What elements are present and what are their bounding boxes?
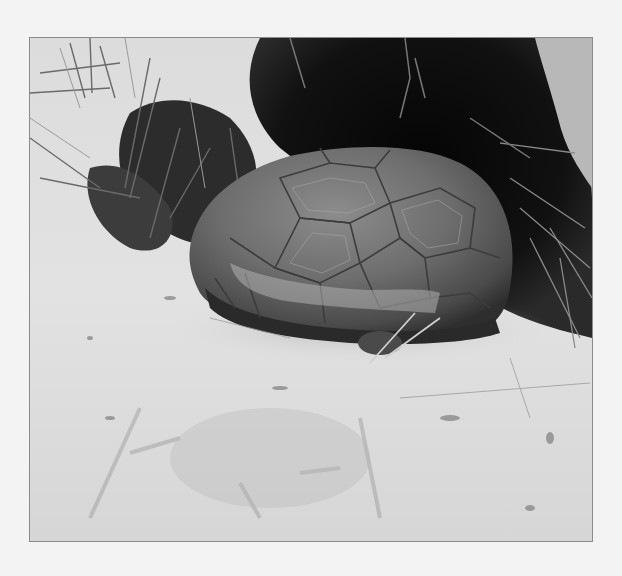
tortoise-photo [29, 37, 593, 542]
tortoise-burrow-image [30, 38, 592, 541]
